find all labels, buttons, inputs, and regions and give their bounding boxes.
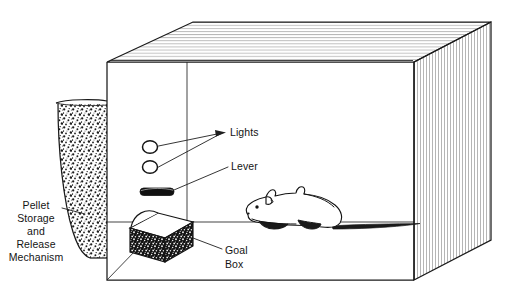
chamber-diagram: Lights Lever Goal Box Pellet: [0, 0, 522, 299]
light-lower-icon[interactable]: [143, 161, 158, 174]
goal-box-label-line2: Box: [225, 258, 244, 270]
lever-leader: [174, 167, 228, 190]
pellet-label-line3: and: [27, 225, 45, 237]
goal-box-leader: [193, 238, 222, 249]
pellet-hopper-rim: [56, 100, 107, 103]
pellet-label-line2: Storage: [17, 212, 55, 224]
rat-nose: [247, 212, 249, 214]
pellet-hopper: [56, 100, 107, 258]
pellet-label-line1: Pellet: [23, 199, 50, 211]
lights-leader-arrow: [215, 130, 226, 137]
pellet-label-line4: Release: [16, 238, 55, 250]
lights-leader-lower: [159, 133, 223, 167]
rat-ear: [266, 197, 272, 205]
rat-eye: [255, 205, 258, 208]
pellet-label-line5: Mechanism: [9, 251, 64, 263]
rat: [246, 187, 420, 229]
lights-leader-upper: [159, 133, 223, 146]
lever-label: Lever: [231, 160, 258, 172]
goal-box-label-line1: Goal: [225, 244, 248, 256]
lights-label: Lights: [230, 126, 259, 138]
goal-box-group: Goal Box: [130, 211, 248, 270]
pellet-hopper-fill: [58, 104, 107, 258]
chamber-floor-bevel-left: [107, 249, 137, 280]
light-upper-icon[interactable]: [143, 141, 158, 154]
rat-tail: [332, 224, 420, 230]
figure-root: Lights Lever Goal Box Pellet: [0, 0, 522, 299]
chamber-right-face-hatch: [414, 22, 491, 280]
